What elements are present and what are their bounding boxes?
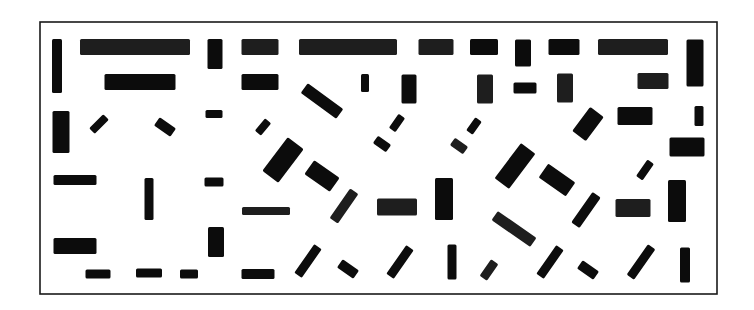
bar-shape (389, 114, 405, 133)
bar-shape (577, 260, 599, 280)
bar-shape (154, 117, 176, 137)
bar-shape (448, 245, 457, 280)
bar-shape (205, 178, 224, 187)
bar-shape (668, 180, 686, 222)
bar-group (52, 39, 705, 283)
bar-shape (242, 74, 279, 90)
bar-shape (53, 111, 70, 153)
bar-shape (670, 138, 705, 157)
bar-shape (470, 39, 498, 55)
bar-shape (242, 269, 275, 279)
figure-frame (40, 22, 717, 294)
bar-shape (466, 117, 482, 135)
bar-shape (206, 110, 223, 118)
bar-shape (695, 106, 704, 126)
bar-shape (52, 39, 62, 93)
bar-shape (549, 39, 580, 55)
bar-shape (386, 245, 413, 279)
bar-shape (262, 137, 303, 183)
bar-shape (419, 39, 454, 55)
bar-shape (572, 107, 604, 141)
bar-shape (54, 238, 97, 254)
bar-shape (598, 39, 668, 55)
bar-shape (89, 114, 109, 134)
bar-shape (687, 40, 704, 87)
bar-shape (492, 211, 537, 247)
bar-shape (301, 83, 344, 119)
bar-shape (477, 75, 493, 104)
bar-shape (54, 175, 97, 185)
bar-shape (618, 107, 653, 125)
bar-shape (636, 160, 654, 181)
bar-shape (180, 270, 198, 279)
bar-pattern-figure (0, 0, 754, 310)
bar-shape (80, 39, 190, 55)
bar-shape (145, 178, 154, 220)
bar-shape (435, 178, 453, 220)
bar-shape (680, 248, 690, 283)
bar-shape (373, 136, 391, 153)
bar-shape (337, 259, 359, 279)
bar-shape (299, 39, 397, 55)
bar-shape (304, 160, 339, 192)
bar-shape (616, 199, 651, 217)
bar-shape (242, 207, 290, 215)
bar-shape (136, 269, 162, 278)
bar-shape (557, 74, 573, 103)
bar-shape (294, 244, 321, 278)
bar-shape (638, 73, 669, 89)
bar-shape (242, 39, 279, 55)
bar-shape (255, 118, 271, 135)
bar-shape (495, 143, 536, 189)
bar-shape (402, 75, 417, 104)
bar-shape (514, 83, 537, 94)
bar-shape (377, 199, 417, 216)
bar-shape (208, 39, 223, 69)
bar-shape (539, 164, 576, 197)
bar-shape (330, 188, 359, 223)
bar-shape (571, 192, 600, 228)
bar-shape (86, 270, 111, 279)
bar-shape (515, 40, 531, 67)
bar-shape (450, 138, 468, 155)
bar-shape (627, 244, 656, 279)
bar-shape (105, 74, 176, 90)
bar-shape (361, 74, 369, 92)
bar-shape (536, 245, 563, 279)
bar-shape (480, 259, 499, 281)
bar-shape (208, 227, 224, 257)
